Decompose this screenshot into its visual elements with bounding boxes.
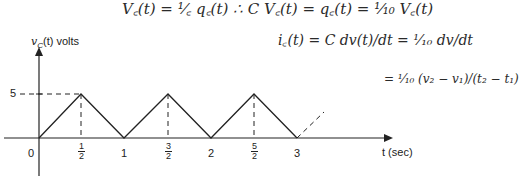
x-tick-2: 2 [208,147,214,159]
x-tick-half: 1 2 [78,142,85,161]
x-axis-arrow-icon [384,134,393,142]
x-tick-five-halves: 5 2 [251,142,258,161]
y-tick-5: 5 [10,87,16,99]
x-tick-1: 1 [121,147,127,159]
continuation-dashed [297,112,324,138]
y-axis-label: vC(t) volts [31,35,79,50]
x-tick-0: 0 [28,147,34,159]
x-axis-label: t (sec) [382,146,413,158]
x-tick-3: 3 [294,147,300,159]
x-tick-three-halves: 3 2 [165,142,172,161]
